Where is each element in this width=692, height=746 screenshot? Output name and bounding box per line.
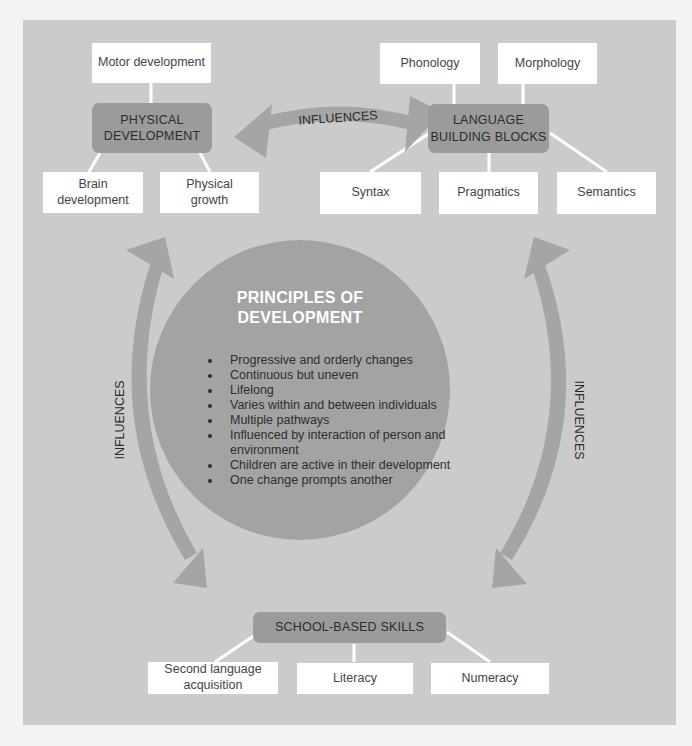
semantics-box: Semantics (557, 172, 656, 214)
numeracy-label: Numeracy (462, 671, 519, 687)
physical-hub-line-1: PHYSICAL (120, 112, 183, 128)
second-language-line-1: Second language (164, 662, 261, 678)
principle-item: One change prompts another (222, 473, 462, 488)
motor-development-label: Motor development (98, 55, 205, 71)
physical-hub-line-2: DEVELOPMENT (104, 128, 201, 144)
principle-item: Multiple pathways (222, 413, 462, 428)
motor-development-box: Motor development (92, 43, 211, 83)
brain-development-line-2: development (57, 193, 129, 209)
syntax-label: Syntax (351, 185, 389, 201)
principles-list: Progressive and orderly changes Continuo… (207, 353, 462, 488)
physical-growth-box: Physical growth (160, 172, 259, 213)
principle-item: Continuous but uneven (222, 368, 462, 383)
principle-item: Varies within and between individuals (222, 398, 462, 413)
principles-title-line-2: DEVELOPMENT (150, 308, 450, 328)
physical-growth-line-1: Physical (186, 177, 233, 193)
physical-growth-line-2: growth (191, 193, 229, 209)
language-hub-line-2: BUILDING BLOCKS (430, 129, 546, 145)
school-based-skills-hub: SCHOOL-BASED SKILLS (253, 612, 446, 643)
principle-item: Children are active in their development (222, 458, 462, 473)
physical-development-hub: PHYSICAL DEVELOPMENT (92, 103, 212, 153)
morphology-box: Morphology (498, 43, 597, 84)
influences-label-right: INFLUENCES (572, 380, 586, 459)
language-hub-line-1: LANGUAGE (453, 112, 524, 128)
literacy-label: Literacy (333, 671, 377, 687)
language-building-blocks-hub: LANGUAGE BUILDING BLOCKS (428, 104, 549, 153)
second-language-acquisition-box: Second language acquisition (148, 662, 278, 694)
principles-title-line-1: PRINCIPLES OF (150, 288, 450, 308)
school-hub-label: SCHOOL-BASED SKILLS (275, 619, 424, 635)
phonology-box: Phonology (380, 43, 480, 84)
brain-development-line-1: Brain (78, 177, 107, 193)
phonology-label: Phonology (400, 56, 459, 72)
principles-title: PRINCIPLES OF DEVELOPMENT (150, 288, 450, 328)
principle-item: Progressive and orderly changes (222, 353, 462, 368)
numeracy-box: Numeracy (431, 663, 549, 694)
influences-arrow-right (492, 237, 570, 588)
pragmatics-label: Pragmatics (457, 185, 520, 201)
literacy-box: Literacy (297, 663, 413, 694)
principle-item: Influenced by interaction of person and … (222, 428, 462, 458)
influences-label-left: INFLUENCES (113, 380, 127, 459)
page-margin (0, 725, 692, 746)
principle-item: Lifelong (222, 383, 462, 398)
pragmatics-box: Pragmatics (439, 172, 538, 214)
second-language-line-2: acquisition (183, 678, 242, 694)
brain-development-box: Brain development (43, 172, 143, 213)
semantics-label: Semantics (577, 185, 635, 201)
principles-circle: PRINCIPLES OF DEVELOPMENT Progressive an… (150, 240, 450, 540)
morphology-label: Morphology (515, 56, 580, 72)
influences-arrow-top (234, 96, 442, 158)
syntax-box: Syntax (320, 172, 421, 214)
